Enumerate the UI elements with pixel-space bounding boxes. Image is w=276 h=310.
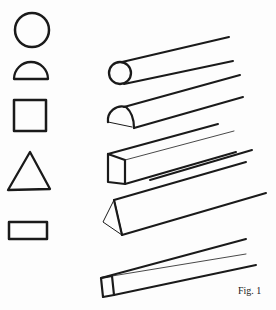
bar-square-icon xyxy=(108,124,252,184)
figure-canvas: Fig. 1 xyxy=(0,0,276,310)
bar-triangular-icon xyxy=(103,162,266,235)
profile-rectangle-icon xyxy=(9,222,47,239)
profile-circle-icon xyxy=(15,13,49,47)
bar-flat-icon xyxy=(101,239,256,297)
bar-round-icon xyxy=(109,37,233,84)
figure-caption: Fig. 1 xyxy=(238,285,261,296)
profile-triangle-icon xyxy=(8,152,50,190)
shapes-diagram xyxy=(0,0,276,310)
profile-half-circle-icon xyxy=(14,62,48,79)
profile-square-icon xyxy=(14,100,46,131)
